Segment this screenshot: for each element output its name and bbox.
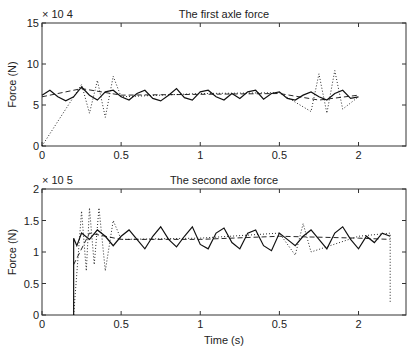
y-axis-label: Force (N)	[6, 229, 18, 275]
x-tick-label: 0.5	[113, 149, 128, 161]
axle-force-figure: The first axle force05101500.510.52× 10 …	[0, 0, 417, 352]
subplot-2: The second axle force00.511.5200.510.52×…	[6, 174, 406, 346]
series-solid	[74, 227, 391, 315]
y-tick-label: 5	[33, 99, 39, 111]
series-dashed	[74, 233, 391, 265]
x-axis-label: Time (s)	[204, 334, 244, 346]
y-multiplier: × 10 5	[42, 174, 73, 186]
x-tick-label: 0	[39, 318, 45, 330]
y-tick-label: 2	[33, 183, 39, 195]
y-tick-label: 1.5	[24, 215, 39, 227]
y-tick-label: 1	[33, 246, 39, 258]
chart-title: The first axle force	[179, 8, 269, 20]
x-tick-label: 2	[355, 149, 361, 161]
y-tick-label: 15	[27, 17, 39, 29]
x-tick-label: 0	[39, 149, 45, 161]
x-tick-label: 1	[197, 149, 203, 161]
plot-frame	[42, 189, 406, 315]
series-solid	[42, 87, 359, 101]
x-tick-label: 0.5	[272, 318, 287, 330]
x-tick-label: 1	[197, 318, 203, 330]
x-tick-label: 0.5	[272, 149, 287, 161]
series-dotted	[74, 208, 391, 315]
x-tick-label: 2	[355, 318, 361, 330]
y-tick-label: 0.5	[24, 278, 39, 290]
series-dotted	[42, 71, 359, 146]
chart-title: The second axle force	[170, 174, 278, 186]
y-axis-label: Force (N)	[6, 61, 18, 107]
x-tick-label: 0.5	[113, 318, 128, 330]
y-tick-label: 10	[27, 58, 39, 70]
subplot-1: The first axle force05101500.510.52× 10 …	[6, 8, 406, 161]
y-multiplier: × 10 4	[42, 8, 73, 20]
